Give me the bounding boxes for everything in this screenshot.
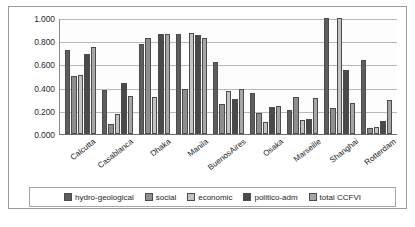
- bar: [367, 128, 372, 134]
- bar: [84, 54, 89, 134]
- bar: [91, 47, 96, 134]
- bar: [128, 96, 133, 134]
- bar: [269, 107, 274, 134]
- bar: [337, 18, 342, 134]
- legend-label: hydro-geological: [75, 193, 134, 202]
- bar: [71, 76, 76, 134]
- bar: [276, 106, 281, 134]
- bar: [306, 119, 311, 134]
- x-axis-tick-label: Calcutta: [66, 137, 97, 164]
- bar: [145, 38, 150, 134]
- bar-groups: [60, 19, 397, 134]
- legend-swatch-icon: [243, 193, 251, 201]
- bar: [343, 70, 348, 134]
- bar-group: [284, 19, 321, 134]
- bar: [256, 113, 261, 134]
- bar: [152, 97, 157, 134]
- bar: [313, 98, 318, 134]
- bar: [300, 120, 305, 134]
- bar: [219, 104, 224, 134]
- bar: [380, 121, 385, 134]
- legend-item[interactable]: total CCFVI: [309, 193, 361, 202]
- bar: [102, 90, 107, 134]
- legend-item[interactable]: social: [145, 193, 176, 202]
- bar: [202, 38, 207, 134]
- bar: [176, 34, 181, 134]
- bar: [121, 83, 126, 134]
- bar: [165, 34, 170, 134]
- y-axis-tick-label: 0.000: [11, 130, 55, 140]
- bar: [189, 33, 194, 134]
- bar-group: [173, 19, 210, 134]
- bar-group: [321, 19, 358, 134]
- chart-figure: 1.0000.8000.6000.4000.2000.000 CalcuttaC…: [0, 0, 415, 227]
- bar: [232, 99, 237, 134]
- bar: [213, 62, 218, 134]
- bar: [239, 89, 244, 134]
- bar-group: [136, 19, 173, 134]
- legend-label: total CCFVI: [320, 193, 361, 202]
- bar: [374, 127, 379, 134]
- y-axis: 1.0000.8000.6000.4000.2000.000: [9, 19, 55, 135]
- bar: [108, 124, 113, 134]
- bar: [78, 75, 83, 134]
- bar: [350, 103, 355, 134]
- legend-swatch-icon: [187, 193, 195, 201]
- chart-frame: 1.0000.8000.6000.4000.2000.000 CalcuttaC…: [8, 6, 407, 209]
- x-axis-labels: CalcuttaCasablancaDhakaManilaBuenosAires…: [59, 137, 397, 183]
- y-axis-tick-label: 1.000: [11, 14, 55, 24]
- legend-label: politico-adm: [254, 193, 297, 202]
- legend-item[interactable]: hydro-geological: [64, 193, 134, 202]
- chart-legend: hydro-geologicalsocialeconomicpolitico-a…: [29, 187, 396, 207]
- bar: [250, 93, 255, 134]
- bar: [287, 110, 292, 134]
- bar: [330, 108, 335, 134]
- bar: [139, 44, 144, 134]
- y-axis-tick-label: 0.200: [11, 107, 55, 117]
- bar: [65, 50, 70, 134]
- legend-label: social: [156, 193, 176, 202]
- bar: [324, 18, 329, 134]
- bar: [293, 97, 298, 134]
- legend-label: economic: [198, 193, 232, 202]
- bar-group: [62, 19, 99, 134]
- y-axis-tick-label: 0.600: [11, 60, 55, 70]
- plot-area: [59, 19, 397, 135]
- legend-swatch-icon: [309, 193, 317, 201]
- bar: [361, 60, 366, 134]
- legend-item[interactable]: economic: [187, 193, 232, 202]
- legend-swatch-icon: [64, 193, 72, 201]
- bar: [263, 122, 268, 134]
- y-axis-tick-label: 0.800: [11, 37, 55, 47]
- legend-swatch-icon: [145, 193, 153, 201]
- bar: [226, 91, 231, 134]
- bar: [158, 34, 163, 134]
- bar-group: [358, 19, 395, 134]
- bar-group: [99, 19, 136, 134]
- bar: [387, 100, 392, 134]
- bar: [182, 89, 187, 134]
- bar: [115, 114, 120, 134]
- bar: [195, 35, 200, 134]
- y-axis-tick-label: 0.400: [11, 84, 55, 94]
- bar-group: [210, 19, 247, 134]
- bar-group: [247, 19, 284, 134]
- legend-item[interactable]: politico-adm: [243, 193, 297, 202]
